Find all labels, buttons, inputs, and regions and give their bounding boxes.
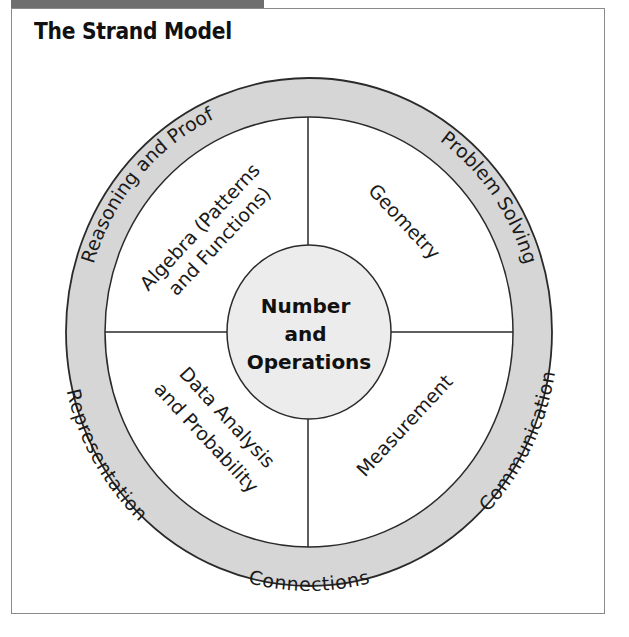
strand-model-diagram: Number and Operations Algebra (Patterns … <box>0 0 629 637</box>
core-line-1: Number <box>261 294 351 318</box>
core-line-2: and <box>284 322 326 346</box>
core-line-3: Operations <box>247 350 372 374</box>
